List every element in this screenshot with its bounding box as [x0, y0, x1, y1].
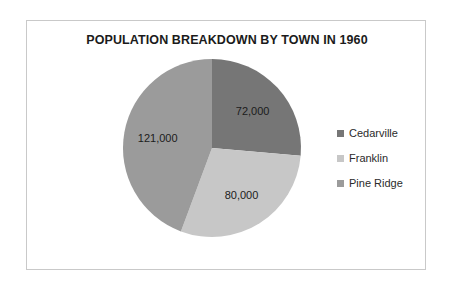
legend-swatch-icon [337, 130, 344, 137]
pie-data-label: 80,000 [225, 189, 259, 201]
legend-item[interactable]: Franklin [337, 146, 429, 171]
legend-swatch-icon [337, 155, 344, 162]
legend-item[interactable]: Pine Ridge [337, 171, 429, 196]
legend-swatch-icon [337, 180, 344, 187]
pie-chart-plot-area: 72,00080,000121,000 [112, 48, 312, 248]
legend-item[interactable]: Cedarville [337, 121, 429, 146]
pie-data-label: 72,000 [236, 105, 270, 117]
pie-slice-group [123, 59, 301, 237]
chart-legend: CedarvilleFranklinPine Ridge [337, 121, 429, 196]
chart-frame: POPULATION BREAKDOWN BY TOWN IN 1960 72,… [26, 20, 426, 270]
chart-title: POPULATION BREAKDOWN BY TOWN IN 1960 [27, 33, 427, 47]
pie-chart-svg: 72,00080,000121,000 [112, 48, 312, 248]
legend-item-label: Pine Ridge [349, 178, 403, 189]
pie-data-label: 121,000 [138, 132, 178, 144]
legend-item-label: Cedarville [349, 128, 398, 139]
legend-item-label: Franklin [349, 153, 388, 164]
